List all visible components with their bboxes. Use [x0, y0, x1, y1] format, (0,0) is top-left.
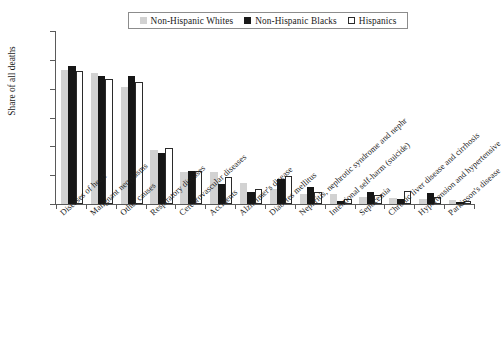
legend-entry-hispanics: Hispanics — [348, 16, 397, 26]
bar-group — [61, 31, 83, 204]
x-axis-tick — [355, 204, 356, 209]
bar-whites — [61, 70, 68, 204]
x-axis-tick — [205, 204, 206, 209]
x-axis-tick — [414, 204, 415, 209]
bar-whites — [150, 150, 157, 204]
bar-hispanics — [76, 71, 83, 204]
legend-swatch-icon-whites — [140, 17, 147, 24]
bar-group — [150, 31, 172, 204]
legend-swatch-icon-blacks — [244, 17, 251, 24]
y-axis-tick — [50, 146, 55, 147]
x-axis-tick — [175, 204, 176, 209]
x-axis-tick — [235, 204, 236, 209]
x-axis-tick — [116, 204, 117, 209]
bar-group — [240, 31, 262, 204]
x-axis-tick — [56, 204, 57, 209]
legend-label-whites: Non-Hispanic Whites — [151, 16, 234, 26]
x-axis-tick — [384, 204, 385, 209]
x-axis-tick — [474, 204, 475, 209]
x-axis-tick — [325, 204, 326, 209]
legend-label-blacks: Non-Hispanic Blacks — [255, 16, 337, 26]
y-axis-title: Share of all deaths — [7, 1, 17, 161]
y-axis-tick — [50, 89, 55, 90]
legend-entry-non-hispanic-whites: Non-Hispanic Whites — [140, 16, 234, 26]
y-axis-tick — [50, 118, 55, 119]
x-axis-tick — [146, 204, 147, 209]
legend-entry-non-hispanic-blacks: Non-Hispanic Blacks — [244, 16, 337, 26]
bar-hispanics — [135, 82, 142, 204]
chart-legend: Non-Hispanic Whites Non-Hispanic Blacks … — [128, 12, 408, 29]
y-axis-tick — [50, 175, 55, 176]
legend-label-hispanics: Hispanics — [359, 16, 397, 26]
y-axis-tick — [50, 31, 55, 32]
x-axis-tick — [444, 204, 445, 209]
x-axis-tick — [295, 204, 296, 209]
x-axis-tick — [265, 204, 266, 209]
bar-blacks — [68, 66, 75, 204]
y-axis-tick — [50, 60, 55, 61]
legend-swatch-icon-hispanics — [348, 17, 355, 24]
bar-hispanics — [105, 79, 112, 204]
plot-area — [56, 31, 474, 204]
y-axis-tick — [50, 204, 55, 205]
x-axis-tick — [86, 204, 87, 209]
